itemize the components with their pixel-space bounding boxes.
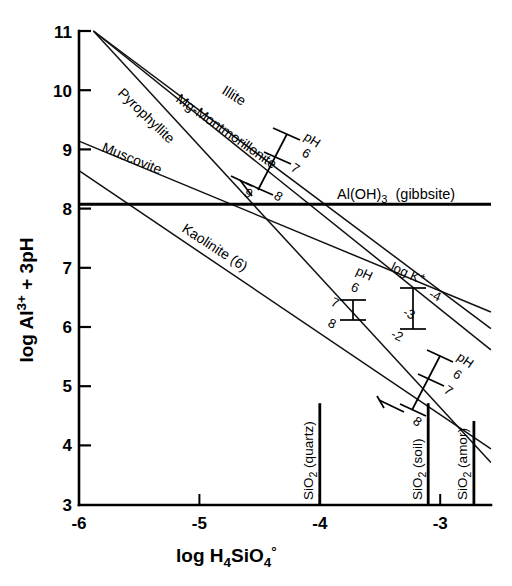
phase-boundary-lines xyxy=(79,31,491,462)
y-tick-label: 6 xyxy=(63,318,72,337)
y-tick-label: 10 xyxy=(53,82,72,101)
silica-saturation-lines: SiO2 (quartz) SiO2 (soil) SiO2 (amor) xyxy=(301,403,474,505)
ph-scale-lower: pH 6 7 8 xyxy=(377,349,477,429)
ph-logk-scale-middle: pH log K+ 6 7 8 -4 -3 -2 xyxy=(326,257,444,344)
mg-montmorillonite-label: Mg-Montmorillonite xyxy=(173,90,280,172)
geochemical-stability-diagram: 11 10 9 8 7 6 5 4 3 -6 -5 -4 -3 log H4Si… xyxy=(0,0,512,586)
sio2-amor-label-paren: (amor) xyxy=(455,428,470,468)
y-tick-label: 4 xyxy=(63,436,73,455)
sio2-quartz-label-main: SiO xyxy=(301,477,316,500)
y-tick-label: 5 xyxy=(63,377,72,396)
svg-text:Al(OH)3 (gibbsite): Al(OH)3 (gibbsite) xyxy=(337,186,455,205)
x-axis-title: log H4SiO4° xyxy=(176,544,277,570)
sio2-soil-label-paren: (soil) xyxy=(410,439,425,468)
y-axis-title-main: log Al xyxy=(16,310,37,362)
gibbsite-label-paren: (gibbsite) xyxy=(396,186,456,202)
ph-scale-upper-tick-label-9: 9 xyxy=(241,185,255,202)
y-tick-label: 9 xyxy=(63,141,72,160)
sio2-soil-label: SiO2 (soil) xyxy=(410,439,428,500)
illite-line xyxy=(93,31,491,329)
svg-text:log H4SiO4°: log H4SiO4° xyxy=(176,544,277,570)
y-axis-title-rest: + 3pH xyxy=(16,237,37,295)
sio2-amor-label: SiO2 (amor) xyxy=(455,428,473,500)
ph-scale-lower-tick-label-7: 7 xyxy=(441,382,456,398)
y-axis-ticks xyxy=(79,31,91,445)
x-axis-tick-labels: -6 -5 -4 -3 xyxy=(71,514,447,533)
x-tick-label: -4 xyxy=(312,514,328,533)
ph-logk-ph-label-7: 7 xyxy=(329,294,342,311)
y-axis-tick-labels: 11 10 9 8 7 6 5 4 3 xyxy=(53,23,72,515)
gibbsite-label-main: Al(OH) xyxy=(337,186,381,202)
y-tick-label: 3 xyxy=(63,496,72,515)
x-tick-label: -5 xyxy=(192,514,207,533)
ph-logk-ph-label-6: 6 xyxy=(349,279,362,296)
sio2-amor-label-main: SiO xyxy=(455,477,470,500)
ph-scale-lower-tick-8 xyxy=(400,404,426,416)
sio2-quartz-label-paren: (quartz) xyxy=(301,421,316,468)
ph-logk-logk-label-2: -2 xyxy=(389,326,406,344)
x-tick-label: -3 xyxy=(433,514,448,533)
ph-scale-upper-tick-label-6: 6 xyxy=(299,145,313,162)
y-tick-label: 7 xyxy=(63,259,72,278)
pyrophyllite-label: Pyrophyllite xyxy=(115,85,178,147)
x-tick-label: -6 xyxy=(71,514,86,533)
x-axis-title-degree: ° xyxy=(271,544,276,559)
ph-logk-ph-label-8: 8 xyxy=(326,315,339,332)
ph-scale-lower-tick-6 xyxy=(427,350,453,362)
kaolinite-label: Kaolinite (6) xyxy=(179,220,250,274)
y-tick-label: 8 xyxy=(63,200,72,219)
illite-label: Illite xyxy=(219,82,249,109)
ph-scale-lower-tick-label-8: 8 xyxy=(410,413,425,429)
sio2-soil-label-main: SiO xyxy=(410,477,425,500)
y-axis-title: log Al3+ + 3pH xyxy=(14,237,37,362)
y-tick-label: 11 xyxy=(54,23,72,42)
x-axis-title-main: log H xyxy=(176,545,224,566)
ph-scale-lower-tick-label-6: 6 xyxy=(450,366,465,382)
y-axis-title-sup: 3+ xyxy=(14,295,29,311)
gibbsite-label: Al(OH)3 (gibbsite) xyxy=(337,186,455,205)
ph-logk-logk-label-4: -4 xyxy=(427,286,444,304)
ph-scale-upper-tick-label-7: 7 xyxy=(288,160,302,177)
ph-scale-lower-tick-7 xyxy=(418,374,444,386)
ph-scale-upper-tick-label-8: 8 xyxy=(271,188,285,205)
sio2-quartz-label: SiO2 (quartz) xyxy=(301,421,319,500)
x-axis-title-mid: SiO xyxy=(231,545,264,566)
ph-logk-logk-label-3: -3 xyxy=(401,304,418,322)
pyrophyllite-line xyxy=(93,31,491,462)
svg-text:log Al3+ + 3pH: log Al3+ + 3pH xyxy=(14,237,37,362)
ph-scale-upper-tick-6 xyxy=(273,128,300,140)
muscovite-label: Muscovite xyxy=(100,139,165,178)
